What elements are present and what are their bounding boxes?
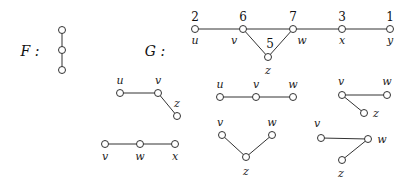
subgraph-vwz-a-label-w: w bbox=[382, 75, 392, 88]
graph-g-number-v: 6 bbox=[239, 10, 247, 24]
subgraph-vwz-b-label-v: v bbox=[314, 117, 321, 130]
subgraph-uvz-node-v bbox=[155, 90, 162, 97]
subgraph-vzw-node-w bbox=[269, 132, 276, 139]
graph-g-edge-v-z bbox=[243, 29, 268, 57]
graph-g-node-w bbox=[290, 26, 297, 33]
subgraph-vwz-b-label-w: w bbox=[377, 133, 387, 146]
subgraph-vwz-b-label-z: z bbox=[337, 167, 344, 180]
subgraph-vwz-b-node-v bbox=[318, 135, 325, 142]
labels-layer: F :G :2u6v5z7w3x1yuvzvwxuvwvzwvwzvwz bbox=[20, 10, 394, 180]
graph-g-name-z: z bbox=[264, 64, 271, 77]
subgraph-vzw-edge-v-z bbox=[222, 135, 246, 157]
graph-g-name-u: u bbox=[191, 34, 198, 47]
subgraph-vwz-a-node-w bbox=[384, 92, 391, 99]
graph-g-node-u bbox=[192, 26, 199, 33]
subgraph-vwz-b-edge-w-z bbox=[342, 139, 368, 160]
subgraph-uvw-node-w bbox=[290, 94, 297, 101]
subgraph-uvz-node-z bbox=[174, 113, 181, 120]
subgraph-vzw-node-z bbox=[243, 154, 250, 161]
subgraph-uvz-label-v: v bbox=[155, 74, 162, 87]
subgraph-vwx-label-v: v bbox=[102, 150, 109, 163]
graph-g-node-y bbox=[387, 26, 394, 33]
subgraph-vzw-label-w: w bbox=[267, 116, 277, 129]
graph-g-node-z bbox=[265, 54, 272, 61]
subgraph-uvz-label-u: u bbox=[116, 74, 123, 87]
subgraph-uvw-node-v bbox=[253, 94, 260, 101]
graph-f-label: F : bbox=[20, 43, 40, 59]
graph-g-node-x bbox=[339, 26, 346, 33]
graph-f-node-f2 bbox=[59, 47, 66, 54]
graph-g-number-w: 7 bbox=[289, 10, 297, 24]
subgraph-vwx-node-x bbox=[172, 141, 179, 148]
graph-f-node-f1 bbox=[59, 27, 66, 34]
subgraph-vwx-node-v bbox=[102, 141, 109, 148]
subgraph-vwz-b-node-w bbox=[365, 136, 372, 143]
subgraph-vwx-label-w: w bbox=[135, 150, 145, 163]
subgraph-uvz-node-u bbox=[117, 90, 124, 97]
graph-g-label: G : bbox=[145, 43, 165, 59]
graph-g-number-x: 3 bbox=[338, 10, 346, 24]
subgraph-vwz-b-node-z bbox=[339, 157, 346, 164]
subgraph-vwz-b-edge-v-w bbox=[321, 138, 368, 139]
subgraph-vwz-a-node-z bbox=[361, 110, 368, 117]
graph-g-number-z: 5 bbox=[266, 37, 274, 51]
graph-g-name-y: y bbox=[386, 34, 394, 47]
graph-g-number-y: 1 bbox=[386, 10, 394, 24]
subgraph-vwx-label-x: x bbox=[172, 150, 179, 163]
subgraph-uvw-label-v: v bbox=[253, 78, 260, 91]
graph-f-node-f3 bbox=[59, 67, 66, 74]
subgraph-vwz-a-node-v bbox=[339, 92, 346, 99]
graph-diagram: F :G :2u6v5z7w3x1yuvzvwxuvwvzwvwzvwz bbox=[0, 0, 411, 185]
graph-g-name-v: v bbox=[231, 34, 238, 47]
subgraph-vwz-a-edge-v-z bbox=[342, 95, 364, 113]
graph-g-number-u: 2 bbox=[191, 10, 199, 24]
subgraph-uvw-label-u: u bbox=[216, 78, 223, 91]
subgraph-uvw-node-u bbox=[217, 94, 224, 101]
graph-g-node-v bbox=[240, 26, 247, 33]
subgraph-vwz-a-label-z: z bbox=[372, 107, 379, 120]
subgraph-vzw-node-v bbox=[219, 132, 226, 139]
subgraph-vwx-node-w bbox=[137, 141, 144, 148]
subgraph-uvw-label-w: w bbox=[288, 78, 298, 91]
subgraph-vzw-label-v: v bbox=[217, 116, 224, 129]
subgraph-vwz-a-label-v: v bbox=[338, 75, 345, 88]
subgraph-vzw-label-z: z bbox=[242, 165, 249, 178]
subgraph-vzw-edge-z-w bbox=[246, 135, 272, 157]
graph-g-name-x: x bbox=[339, 34, 346, 47]
graph-g-name-w: w bbox=[297, 34, 307, 47]
subgraph-uvz-label-z: z bbox=[173, 97, 180, 110]
